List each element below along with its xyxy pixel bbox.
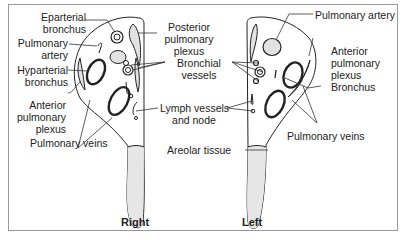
caption-right: Right [121, 216, 149, 228]
label-areolar-tissue: Areolar tissue [167, 144, 231, 156]
label-pulmonary-veins-right: Pulmonary veins [30, 137, 108, 149]
label-anterior-plexus-left: Anterior pulmonary plexus [331, 45, 380, 81]
label-pulmonary-artery-right: Pulmonary artery [10, 37, 68, 61]
label-line: vessels [164, 69, 234, 81]
label-line: Hyparterial [10, 64, 68, 76]
label-line: plexus [331, 69, 380, 81]
label-line: Anterior [10, 99, 66, 111]
label-bronchial-vessels: Bronchial vessels [164, 57, 234, 81]
label-line: pulmonary [331, 57, 380, 69]
label-line: artery [10, 49, 68, 61]
label-hyparterial-bronchus: Hyparterial bronchus [10, 64, 68, 88]
label-line: Bronchial [164, 57, 234, 69]
label-line: plexus [10, 123, 66, 135]
label-line: Pulmonary [10, 37, 68, 49]
label-line: plexus [154, 45, 224, 57]
label-line: bronchus [10, 76, 68, 88]
label-posterior-plexus: Posterior pulmonary plexus [154, 21, 224, 57]
label-line: and node [160, 114, 228, 126]
label-line: Anterior [331, 45, 380, 57]
caption-left: Left [242, 216, 262, 228]
right-lung-root [74, 17, 144, 228]
label-anterior-plexus-right: Anterior pulmonary plexus [10, 99, 66, 135]
label-line: Posterior [154, 21, 224, 33]
label-eparterial-bronchus: Eparterial bronchus [22, 11, 86, 35]
label-line: pulmonary [10, 111, 66, 123]
label-bronchus-left: Bronchus [331, 81, 375, 93]
label-pulmonary-veins-left: Pulmonary veins [287, 130, 365, 142]
label-pulmonary-artery-left: Pulmonary artery [315, 9, 395, 21]
label-line: Eparterial [22, 11, 86, 23]
label-line: Lymph vessels [160, 102, 228, 114]
label-lymph-vessels: Lymph vessels and node [160, 102, 228, 126]
label-line: pulmonary [154, 33, 224, 45]
label-line: bronchus [22, 23, 86, 35]
